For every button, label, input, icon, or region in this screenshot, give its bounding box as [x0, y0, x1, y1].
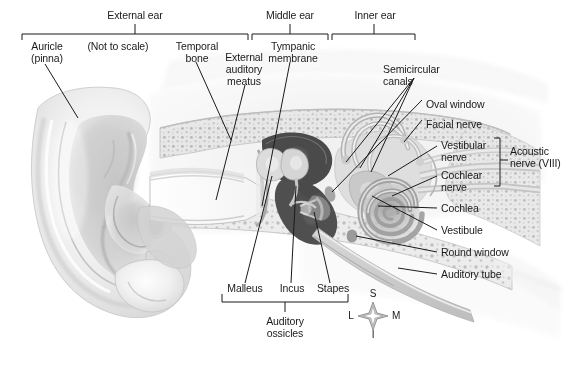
ear-anatomy-figure: External ear Middle ear Inner ear Auricl… — [0, 0, 566, 367]
leader-malleus — [245, 176, 272, 283]
leader-stapes — [314, 212, 330, 283]
region-label-external-ear: External ear — [85, 10, 185, 22]
compass-label-superior: S — [365, 288, 381, 300]
orientation-compass-icon — [358, 302, 388, 330]
label-facial-nerve: Facial nerve — [426, 119, 482, 131]
leader-cochlear-nerve — [392, 176, 437, 196]
leader-semicircular-canals — [346, 78, 414, 172]
leader-vestibule — [372, 196, 437, 230]
leader-cochlea — [378, 206, 437, 208]
label-vestibular-nerve-line1: Vestibular — [441, 140, 486, 152]
label-auditory-tube: Auditory tube — [441, 269, 502, 281]
region-label-inner-ear: Inner ear — [340, 10, 410, 22]
label-auditory-ossicles-line1: Auditory — [245, 316, 325, 328]
bracket-auditory-ossicles — [222, 294, 348, 312]
bracket-inner-ear — [332, 24, 415, 40]
leader-round-window — [356, 236, 437, 252]
leader-auditory-tube — [398, 268, 437, 274]
label-stapes: Stapes — [311, 283, 355, 295]
label-tympanic-membrane-line1: Tympanic — [257, 41, 329, 53]
bracket-middle-ear — [252, 24, 328, 40]
leader-auricle — [45, 64, 78, 118]
label-auditory-ossicles-line2: ossicles — [245, 328, 325, 340]
label-auricle-line1: Auricle — [16, 41, 78, 53]
label-semicircular-canals-line2: canals — [383, 76, 413, 88]
label-auricle-line2: (pinna) — [16, 53, 78, 65]
leader-facial-nerve — [404, 120, 422, 142]
leader-oval-window — [332, 100, 422, 192]
compass-label-lateral: L — [345, 310, 357, 322]
label-cochlear-nerve-line2: nerve — [441, 182, 467, 194]
compass-label-medial: M — [389, 310, 403, 322]
label-cochlear-nerve-line1: Cochlear — [441, 170, 482, 182]
label-temporal-bone-line1: Temporal — [165, 41, 229, 53]
label-tympanic-membrane-line2: membrane — [257, 53, 329, 65]
label-cochlea: Cochlea — [441, 203, 479, 215]
label-incus: Incus — [271, 283, 313, 295]
label-malleus: Malleus — [219, 283, 271, 295]
label-round-window: Round window — [441, 247, 509, 259]
label-not-to-scale: (Not to scale) — [79, 41, 157, 53]
label-acoustic-nerve-line2: nerve (VIII) — [510, 158, 561, 170]
label-external-auditory-meatus-line2: auditory — [215, 64, 273, 76]
leader-vestibular-nerve — [388, 146, 437, 176]
leader-external-auditory-meatus — [216, 85, 245, 200]
label-vestibular-nerve-line2: nerve — [441, 152, 467, 164]
compass-label-inferior: I — [365, 329, 381, 341]
label-vestibule: Vestibule — [441, 225, 483, 237]
label-external-auditory-meatus-line3: meatus — [215, 76, 273, 88]
bracket-acoustic-nerve — [494, 138, 508, 186]
leader-incus — [291, 186, 296, 283]
label-oval-window: Oval window — [426, 99, 484, 111]
region-label-middle-ear: Middle ear — [250, 10, 330, 22]
label-acoustic-nerve-line1: Acoustic — [510, 146, 549, 158]
bracket-external-ear — [22, 24, 248, 40]
label-semicircular-canals-line1: Semicircular — [383, 64, 440, 76]
